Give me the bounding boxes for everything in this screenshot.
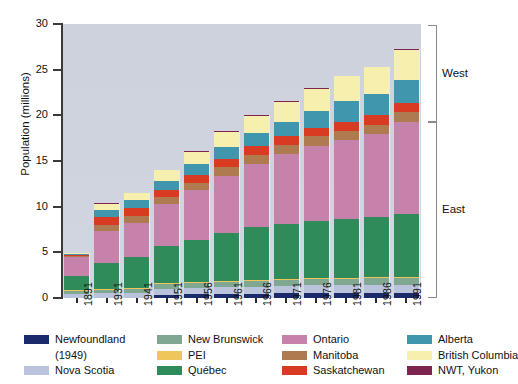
bar-segment-1961-british-columbia [214, 132, 239, 147]
legend-swatch [24, 366, 49, 375]
x-tick-label-1981: 1981 [351, 282, 363, 306]
legend-item: Newfoundland [24, 332, 125, 348]
bar-segment-1891-ontario [64, 257, 89, 276]
bar-segment-1986-qu-bec [364, 217, 389, 277]
y-tick-0 [53, 297, 62, 299]
y-tick-label-0: 0 [0, 292, 48, 303]
legend: Newfoundland(1949)Nova ScotiaNew Brunswi… [24, 332, 476, 382]
y-tick-15 [53, 160, 62, 162]
bar-segment-1951-qu-bec [154, 246, 179, 283]
bar-segment-1961-ontario [214, 176, 239, 233]
bar-segment-1991-qu-bec [394, 214, 419, 277]
bar-segment-1986-saskatchewan [364, 115, 389, 124]
bar-separator [419, 49, 420, 298]
legend-swatch [282, 335, 307, 344]
bar-separator [239, 131, 240, 298]
legend-item: Manitoba [282, 348, 385, 364]
y-axis-label: Population (millions) [19, 39, 31, 209]
bar-segment-1966-qu-bec [244, 227, 269, 280]
legend-label: NWT, Yukon [438, 365, 498, 376]
bar-segment-1941-alberta [124, 200, 149, 207]
bar-segment-1981-saskatchewan [334, 122, 359, 131]
legend-swatch [407, 366, 432, 375]
bar-segment-1976-alberta [304, 111, 329, 128]
bar-segment-1956-manitoba [184, 183, 209, 191]
bar-segment-1966-manitoba [244, 155, 269, 164]
legend-item: PEI [157, 348, 263, 364]
bar-segment-1991-ontario [394, 122, 419, 214]
x-tick-1956 [196, 298, 198, 303]
legend-swatch [157, 335, 182, 344]
legend-column-3: OntarioManitobaSaskatchewan [282, 332, 385, 379]
legend-swatch [282, 351, 307, 360]
legend-label: British Columbia [438, 350, 518, 361]
y-tick-10 [53, 206, 62, 208]
legend-item: Ontario [282, 332, 385, 348]
x-tick-label-1966: 1966 [261, 282, 273, 306]
bar-segment-1966-ontario [244, 164, 269, 228]
bar-segment-1941-british-columbia [124, 193, 149, 200]
bar-separator [359, 76, 360, 298]
bracket-label-west: West [442, 67, 468, 79]
bar-separator [299, 101, 300, 298]
bar-1971 [274, 101, 299, 298]
bar-segment-1986-alberta [364, 94, 389, 116]
bar-segment-1956-qu-bec [184, 240, 209, 282]
bracket-east [428, 122, 437, 298]
y-tick-20 [53, 114, 62, 116]
bar-segment-1986-manitoba [364, 125, 389, 135]
bar-1951 [154, 170, 179, 298]
bar-separator [389, 67, 390, 298]
bar-segment-1961-qu-bec [214, 233, 239, 281]
y-tick-30 [53, 23, 62, 25]
legend-label: PEI [188, 350, 206, 361]
x-tick-label-1961: 1961 [232, 282, 244, 306]
bar-segment-1966-british-columbia [244, 116, 269, 133]
bar-segment-1991-saskatchewan [394, 103, 419, 112]
x-tick-1961 [226, 298, 228, 303]
bar-segment-1961-saskatchewan [214, 159, 239, 167]
bar-segment-1971-saskatchewan [274, 136, 299, 144]
x-tick-1941 [136, 298, 138, 303]
legend-label: New Brunswick [188, 334, 263, 345]
legend-label: Québec [188, 365, 227, 376]
legend-swatch [24, 335, 49, 344]
bar-segment-1976-ontario [304, 146, 329, 221]
y-tick-25 [53, 69, 62, 71]
bar-segment-1951-british-columbia [154, 170, 179, 181]
bar-segment-1976-saskatchewan [304, 128, 329, 136]
bar-segment-1931-ontario [94, 231, 119, 262]
bar-segment-1971-qu-bec [274, 224, 299, 279]
bar-segment-1961-manitoba [214, 167, 239, 175]
bar-segment-1971-british-columbia [274, 102, 299, 122]
bar-segment-1971-ontario [274, 154, 299, 224]
bar-1961 [214, 131, 239, 298]
x-tick-1951 [166, 298, 168, 303]
y-tick-label-5: 5 [0, 246, 48, 257]
x-tick-1991 [405, 298, 407, 303]
bar-segment-1981-ontario [334, 140, 359, 219]
bar-segment-1971-alberta [274, 122, 299, 137]
x-tick-label-1976: 1976 [321, 282, 333, 306]
x-tick-label-1991: 1991 [411, 282, 423, 306]
bar-segment-1956-alberta [184, 164, 209, 174]
bar-1981 [334, 76, 359, 298]
bar-1986 [364, 67, 389, 298]
bar-segment-1981-qu-bec [334, 219, 359, 278]
bar-segment-1951-saskatchewan [154, 190, 179, 198]
bar-segment-1986-ontario [364, 134, 389, 217]
legend-item: NWT, Yukon [407, 363, 518, 379]
legend-swatch [157, 351, 182, 360]
legend-item: Saskatchewan [282, 363, 385, 379]
legend-label: Nova Scotia [55, 365, 114, 376]
x-tick-label-1931: 1931 [112, 282, 124, 306]
legend-label: Newfoundland [55, 334, 125, 345]
bar-separator [329, 88, 330, 298]
bar-segment-1941-saskatchewan [124, 208, 149, 216]
bar-1976 [304, 88, 329, 298]
bar-1966 [244, 115, 269, 298]
bar-segment-1991-alberta [394, 80, 419, 103]
bar-segment-1951-manitoba [154, 197, 179, 204]
legend-swatch [407, 335, 432, 344]
